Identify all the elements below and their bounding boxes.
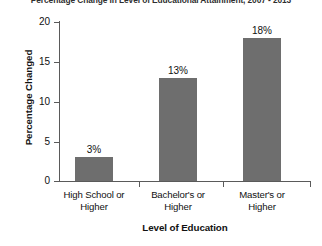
y-tick-label-10: 10: [28, 97, 50, 107]
x-axis-line: [59, 181, 311, 182]
category-label-line-1: Master's or: [220, 189, 304, 201]
category-label-line-2: Higher: [136, 201, 220, 213]
x-tick-mark-2: [223, 182, 224, 187]
y-tick-label-5: 5: [28, 137, 50, 147]
category-label-line-2: Higher: [220, 201, 304, 213]
category-label-high-school-or-higher: High School or Higher: [52, 189, 136, 212]
x-axis-title: Level of Education: [59, 222, 311, 233]
y-tick-label-0: 0: [28, 176, 50, 186]
x-tick-mark-3: [310, 182, 311, 187]
category-label-line-1: Bachelor's or: [136, 189, 220, 201]
bar-value-bachelors-or-higher: 13%: [148, 65, 208, 76]
x-tick-mark-1: [139, 182, 140, 187]
chart-title: Percentage Change in Level of Educationa…: [0, 0, 322, 5]
y-tick-label-15: 15: [28, 57, 50, 67]
category-label-line-2: Higher: [52, 201, 136, 213]
category-label-line-1: High School or: [52, 189, 136, 201]
category-label-bachelors-or-higher: Bachelor's or Higher: [136, 189, 220, 212]
y-tick-label-20: 20: [28, 17, 50, 27]
category-label-masters-or-higher: Master's or Higher: [220, 189, 304, 212]
bar-chart: Percentage Change in Level of Educationa…: [0, 0, 322, 246]
bar-masters-or-higher: [243, 38, 281, 181]
bar-high-school-or-higher: [75, 157, 113, 181]
bar-bachelors-or-higher: [159, 78, 197, 181]
y-axis-line: [59, 21, 60, 182]
bar-value-high-school-or-higher: 3%: [64, 144, 124, 155]
bar-value-masters-or-higher: 18%: [232, 25, 292, 36]
